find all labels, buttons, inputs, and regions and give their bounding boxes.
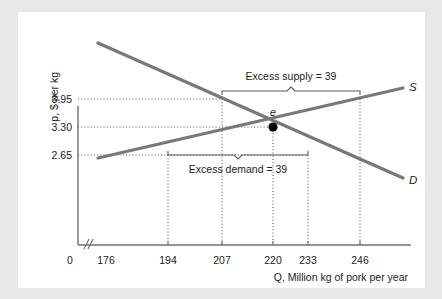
chart-background xyxy=(18,12,425,288)
supply-demand-chart: e Excess supply = 39 Excess demand = 39 … xyxy=(18,12,425,288)
demand-curve-label: D xyxy=(409,174,417,186)
x-tick-label-176: 176 xyxy=(97,254,115,266)
x-tick-label-220: 220 xyxy=(264,254,282,266)
x-tick-label-194: 194 xyxy=(159,254,177,266)
supply-curve-label: S xyxy=(409,81,417,93)
x-tick-label-246: 246 xyxy=(351,254,369,266)
figure-card: e Excess supply = 39 Excess demand = 39 … xyxy=(18,12,425,288)
x-tick-label-233: 233 xyxy=(299,254,317,266)
x-tick-label-0: 0 xyxy=(67,254,73,266)
excess-demand-label: Excess demand = 39 xyxy=(189,163,288,175)
y-tick-label-330: 3.30 xyxy=(52,121,73,133)
x-tick-label-207: 207 xyxy=(213,254,231,266)
y-tick-label-265: 2.65 xyxy=(52,149,73,161)
equilibrium-point xyxy=(268,122,277,131)
equilibrium-label: e xyxy=(270,106,276,118)
y-axis-title: p, $ per kg xyxy=(48,72,60,122)
x-axis-title: Q, Million kg of pork per year xyxy=(274,271,409,283)
excess-supply-label: Excess supply = 39 xyxy=(246,70,337,82)
